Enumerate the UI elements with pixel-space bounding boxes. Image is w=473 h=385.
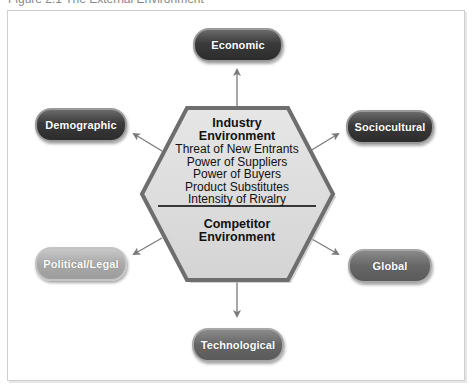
segment-label: Global [373,260,408,272]
segment-label: Economic [211,39,264,51]
industry-force-item: Power of Buyers [150,168,324,181]
industry-environment-block: Industry Environment Threat of New Entra… [150,117,324,206]
industry-force-item: Threat of New Entrants [150,143,324,156]
segment-political-legal: Political/Legal [35,247,127,281]
segment-label: Sociocultural [355,121,426,133]
segment-label: Technological [201,339,275,351]
segment-label: Demographic [45,119,116,131]
competitor-title-line2: Environment [150,231,324,244]
segment-economic: Economic [193,28,283,62]
segment-technological: Technological [192,328,284,362]
segment-global: Global [348,249,432,283]
segment-demographic: Demographic [35,108,127,142]
competitor-environment-block: Competitor Environment [150,218,324,244]
segment-label: Political/Legal [43,258,118,270]
segment-sociocultural: Sociocultural [346,110,434,144]
industry-force-item: Intensity of Rivalry [150,193,324,206]
